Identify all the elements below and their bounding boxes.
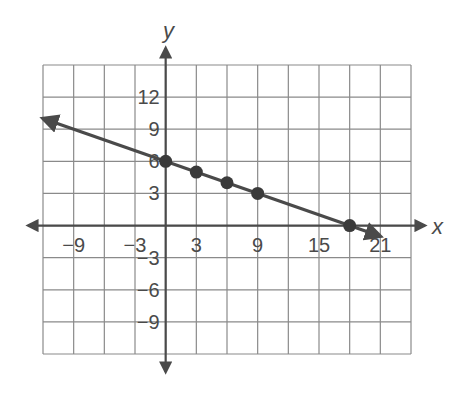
x-tick-label: −9 <box>62 234 85 256</box>
x-tick-label: 21 <box>369 234 391 256</box>
y-tick-label: −6 <box>137 279 160 301</box>
data-point <box>221 176 234 189</box>
y-axis-label: y <box>161 18 176 43</box>
y-tick-label: 12 <box>137 86 159 108</box>
data-point <box>251 187 264 200</box>
data-series <box>43 119 380 237</box>
y-tick-label: 6 <box>149 150 160 172</box>
data-point <box>159 155 172 168</box>
y-tick-label: 9 <box>149 118 160 140</box>
y-tick-label: −9 <box>137 311 160 333</box>
x-tick-label: 15 <box>308 234 330 256</box>
x-tick-label: 9 <box>252 234 263 256</box>
data-line <box>43 119 380 237</box>
y-tick-label: −3 <box>137 247 160 269</box>
data-point <box>190 166 203 179</box>
x-tick-label: 3 <box>191 234 202 256</box>
coordinate-plane: −9−339152112963−3−6−9 x y <box>0 0 471 401</box>
grid <box>43 65 411 354</box>
data-point <box>343 219 356 232</box>
x-axis-label: x <box>431 214 444 239</box>
y-tick-label: 3 <box>149 182 160 204</box>
